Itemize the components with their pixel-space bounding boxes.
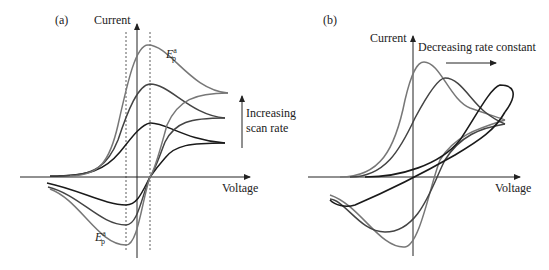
panel-b-x-axis-label: Voltage	[495, 181, 531, 195]
panel-a	[20, 24, 250, 258]
cv-curve-fast-forward	[70, 45, 228, 176]
decreasing-rate-constant-label: Decreasing rate constant	[418, 40, 536, 54]
cathodic-peak-label: Eap	[95, 228, 105, 248]
cv-curve-fast-reverse	[50, 93, 228, 245]
panel-b-label: (b)	[323, 13, 337, 27]
panel-a-y-axis-label: Current	[94, 13, 131, 27]
increasing-scan-rate-line2: scan rate	[246, 121, 288, 135]
cv-curve-slow-reverse	[47, 143, 225, 205]
increasing-scan-rate-line1: Increasing	[246, 106, 296, 120]
cv-curve-slow-kinetics-reverse	[330, 112, 505, 206]
cv-curve-medium-forward	[60, 84, 225, 176]
anodic-peak-label: Eap	[166, 45, 176, 65]
panel-a-label: (a)	[55, 13, 68, 27]
panel-a-x-axis-label: Voltage	[222, 181, 258, 195]
cv-curve-fast-kinetics-forward	[340, 62, 505, 177]
panel-b	[308, 36, 520, 256]
panel-b-y-axis-label: Current	[370, 31, 407, 45]
